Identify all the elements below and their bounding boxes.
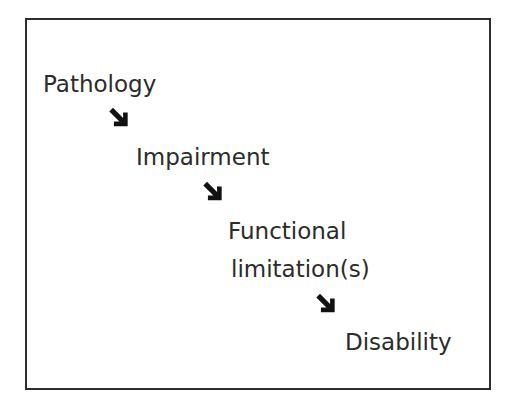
down-right-arrow-icon [314,292,337,314]
down-right-arrow-icon [107,106,130,128]
node-functional-limitations-line2: limitation(s) [231,256,370,282]
node-pathology: Pathology [43,71,156,97]
node-impairment: Impairment [136,144,269,170]
down-right-arrow-icon [201,180,224,202]
node-disability: Disability [345,329,452,355]
node-functional-limitations-line1: Functional [228,218,346,244]
